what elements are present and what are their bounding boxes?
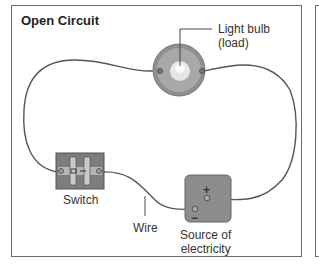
source-label-line1: Source of bbox=[180, 228, 231, 242]
switch-label: Switch bbox=[63, 193, 98, 207]
source-label: Source of electricity bbox=[180, 228, 231, 256]
light-bulb-icon bbox=[153, 44, 205, 96]
source-label-line2: electricity bbox=[180, 242, 231, 256]
plus-terminal-label: + bbox=[203, 183, 210, 197]
light-bulb-label-line1: Light bulb bbox=[218, 22, 270, 36]
wire-label: Wire bbox=[133, 221, 158, 235]
minus-terminal-label: − bbox=[191, 211, 198, 225]
light-bulb-label-line2: (load) bbox=[218, 36, 270, 50]
light-bulb-label: Light bulb (load) bbox=[218, 22, 270, 50]
switch-icon bbox=[56, 153, 104, 189]
circuit-drawing bbox=[0, 0, 319, 273]
wire-bottom bbox=[100, 172, 196, 210]
